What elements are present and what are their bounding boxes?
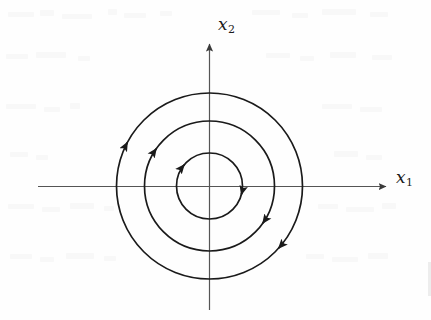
phase-portrait-canvas <box>0 0 431 320</box>
axes-group <box>38 44 386 310</box>
direction-arrows <box>124 142 283 248</box>
x-axis-label-subscript: 1 <box>406 176 413 189</box>
phase-portrait-figure: x2 x1 <box>0 0 431 320</box>
middle-orbit-arrow-upper-left <box>152 149 156 155</box>
y-axis-label: x2 <box>218 14 235 36</box>
y-axis-label-base: x <box>218 14 228 34</box>
outer-orbit-arrow-upper-left <box>124 142 127 148</box>
middle-orbit-arrow-lower-right <box>263 218 267 224</box>
scan-noise <box>6 9 396 262</box>
outer-orbit-arrow-lower-right <box>279 243 284 248</box>
y-axis-label-subscript: 2 <box>228 23 235 36</box>
x-axis-label: x1 <box>396 167 413 189</box>
x-axis-label-base: x <box>396 167 406 187</box>
